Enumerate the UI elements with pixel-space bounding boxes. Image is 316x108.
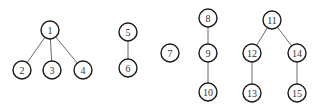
node-label: 8 xyxy=(206,13,211,24)
tree-forest-diagram: 123456789101112131415 xyxy=(0,0,316,108)
node-label: 6 xyxy=(126,63,131,74)
node-1: 1 xyxy=(41,21,59,39)
node-2: 2 xyxy=(13,61,31,79)
node-7: 7 xyxy=(161,44,179,62)
node-label: 11 xyxy=(267,15,277,26)
node-label: 10 xyxy=(203,87,213,98)
node-5: 5 xyxy=(119,23,137,41)
nodes-layer: 123456789101112131415 xyxy=(13,9,306,102)
node-13: 13 xyxy=(243,84,261,102)
node-9: 9 xyxy=(199,44,217,62)
diagram-svg: 123456789101112131415 xyxy=(0,0,316,108)
node-10: 10 xyxy=(199,83,217,101)
node-label: 14 xyxy=(292,48,302,59)
node-3: 3 xyxy=(43,61,61,79)
node-11: 11 xyxy=(263,11,281,29)
node-8: 8 xyxy=(199,9,217,27)
node-label: 1 xyxy=(48,25,53,36)
node-4: 4 xyxy=(74,61,92,79)
node-6: 6 xyxy=(119,59,137,77)
node-label: 15 xyxy=(292,88,302,99)
node-14: 14 xyxy=(288,44,306,62)
node-label: 9 xyxy=(206,48,211,59)
node-label: 3 xyxy=(50,65,55,76)
node-label: 4 xyxy=(81,65,86,76)
node-label: 7 xyxy=(168,48,173,59)
node-label: 2 xyxy=(20,65,25,76)
node-15: 15 xyxy=(288,84,306,102)
node-12: 12 xyxy=(243,44,261,62)
node-label: 5 xyxy=(126,27,131,38)
node-label: 13 xyxy=(247,88,257,99)
node-label: 12 xyxy=(247,48,257,59)
